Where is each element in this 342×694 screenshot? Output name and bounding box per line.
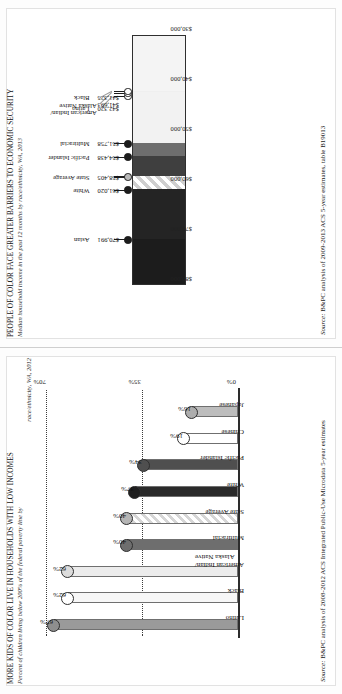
figure-source: Source: B&PC analysis of 2009-2013 ACS 5… xyxy=(319,12,329,335)
figure-subtitle-line1: Median household income in the past 12 m… xyxy=(16,10,24,337)
source-prefix: Source: xyxy=(319,660,327,682)
y-tick-35%: 35% xyxy=(129,379,141,386)
marker-name-3: Pacific Islander xyxy=(48,155,89,162)
category-label-8: Japanese xyxy=(219,401,244,409)
column-5: 37% xyxy=(135,486,238,497)
marker-2 xyxy=(124,173,132,181)
marker-name-2: State Average xyxy=(53,175,89,182)
category-label-7: Chinese xyxy=(221,428,244,436)
y-tick-5: $30,000 xyxy=(171,26,192,33)
column-value-label: 40% xyxy=(113,512,126,520)
source-text: B&PC analysis of 2009-2013 ACS 5-year es… xyxy=(319,126,327,312)
y-tick-1: $70,000 xyxy=(171,226,192,233)
column-stem xyxy=(135,486,238,497)
figure-median-household-income: PEOPLE OF COLOR FACE GREATER BARRIERS TO… xyxy=(0,0,342,347)
column-stem xyxy=(54,619,239,630)
column-value-label: 16% xyxy=(178,405,191,413)
page-canvas: MORE KIDS OF COLOR LIVE IN HOUSEHOLDS WI… xyxy=(0,0,342,694)
column-value-label: 37% xyxy=(121,485,134,493)
marker-3 xyxy=(124,153,132,161)
figure-title: PEOPLE OF COLOR FACE GREATER BARRIERS TO… xyxy=(7,10,16,337)
category-label-5: White xyxy=(227,481,244,489)
marker-value-2: $58,405 xyxy=(98,175,119,182)
column-value-label: 34% xyxy=(129,458,142,466)
source-prefix: Source: xyxy=(319,313,327,335)
category-label-2: American Indian/ Alaska Native xyxy=(195,552,244,568)
column-0: 67% xyxy=(54,619,239,630)
figure-source: Source: B&PC analysis of 2008-2012 ACS I… xyxy=(319,360,329,682)
stacked-bar-chart: $70,991Asian$61,020White$58,405State Ave… xyxy=(96,35,246,285)
gridline-70 xyxy=(46,390,47,636)
column-value-label: 62% xyxy=(53,565,66,573)
marker-name-4: Multiracial xyxy=(60,141,89,148)
column-value-label: 40% xyxy=(113,538,126,546)
marker-4 xyxy=(124,140,132,148)
y-tick-3: $50,000 xyxy=(171,126,192,133)
y-tick-2: $60,000 xyxy=(171,176,192,183)
marker-0 xyxy=(124,236,132,244)
marker-1 xyxy=(124,186,132,194)
category-label-1: Black xyxy=(228,587,244,595)
y-tick-0%: 0% xyxy=(227,379,236,386)
figure-kids-low-income: MORE KIDS OF COLOR LIVE IN HOUSEHOLDS WI… xyxy=(0,347,342,694)
y-tick-0: $80,000 xyxy=(171,276,192,283)
marker-value-4: $51,758 xyxy=(98,141,119,148)
category-label-0: Latino xyxy=(226,614,244,622)
segment-4 xyxy=(133,142,185,156)
y-tick-70%: 70% xyxy=(34,379,46,386)
bar-track xyxy=(132,35,186,285)
segment-5 xyxy=(133,95,185,143)
figure-title: MORE KIDS OF COLOR LIVE IN HOUSEHOLDS WI… xyxy=(7,358,16,684)
marker-name-0: Asian xyxy=(74,237,89,244)
scanned-page: MORE KIDS OF COLOR LIVE IN HOUSEHOLDS WI… xyxy=(0,0,342,694)
segment-3 xyxy=(133,155,185,176)
category-label-3: Multiracial xyxy=(213,534,244,542)
marker-value-0: $70,991 xyxy=(98,237,119,244)
column-stem xyxy=(67,592,238,603)
column-value-label: 19% xyxy=(170,432,183,440)
column-value-label: 67% xyxy=(40,618,53,626)
lollipop-chart: 67%62%62%40%40%37%34%19%16% LatinoBlackA… xyxy=(44,390,284,636)
marker-name-1: White xyxy=(73,188,89,195)
marker-name-6: American Indian/ Alaska Native xyxy=(50,103,96,118)
category-label-4: State Average xyxy=(205,507,244,515)
marker-value-3: $54,438 xyxy=(98,155,119,162)
figure-subtitle-line1: Percent of children living below 200% of… xyxy=(16,358,24,684)
category-label-6: Pacific Islander xyxy=(200,454,244,462)
source-text: B&PC analysis of 2008-2012 ACS Integrate… xyxy=(319,420,327,659)
y-tick-4: $40,000 xyxy=(171,76,192,83)
column-1: 62% xyxy=(67,592,238,603)
marker-value-1: $61,020 xyxy=(98,188,119,195)
marker-7 xyxy=(124,88,132,96)
marker-name-7: Black xyxy=(74,96,89,103)
figure-subtitle-line2: race/ethnicity, WA, 2012 xyxy=(25,358,33,422)
column-value-label: 62% xyxy=(53,591,66,599)
